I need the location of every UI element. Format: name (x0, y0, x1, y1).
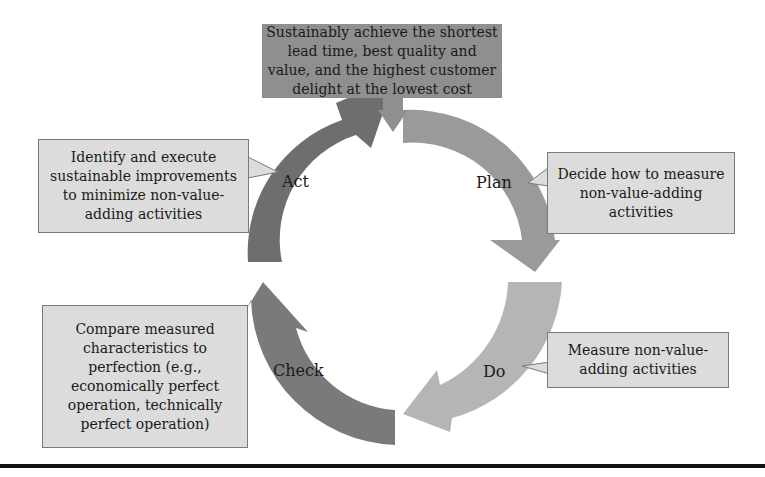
check-callout: Compare measured characteristics to perf… (42, 305, 248, 448)
goal-text: Sustainably achieve the shortest lead ti… (266, 23, 498, 99)
do-label: Do (483, 362, 505, 381)
plan-callout: Decide how to measure non-value-adding a… (547, 152, 735, 234)
do-arrow (403, 282, 562, 432)
check-description: Compare measured characteristics to perf… (68, 320, 222, 434)
bottom-rule (0, 464, 765, 468)
act-label: Act (282, 172, 309, 191)
do-description: Measure non-value- adding activities (568, 341, 709, 379)
goal-box: Sustainably achieve the shortest lead ti… (262, 24, 502, 98)
act-description: Identify and execute sustainable improve… (50, 148, 237, 224)
do-callout: Measure non-value- adding activities (547, 332, 729, 388)
plan-description: Decide how to measure non-value-adding a… (558, 165, 725, 222)
act-callout: Identify and execute sustainable improve… (38, 139, 249, 233)
check-label: Check (273, 361, 324, 380)
plan-label: Plan (476, 173, 512, 192)
